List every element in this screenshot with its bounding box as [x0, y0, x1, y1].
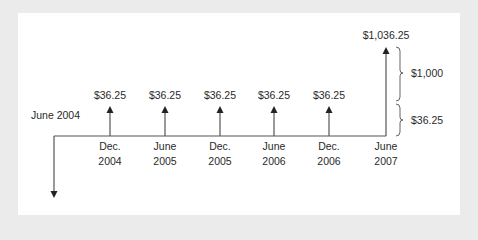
arrowhead-up: [383, 47, 390, 54]
date-line2: 2006: [262, 154, 285, 169]
arrowhead-down: [51, 191, 58, 198]
date-line2: 2007: [374, 154, 397, 169]
date-line2: 2004: [98, 154, 121, 169]
coupon-amount-1: $36.25: [94, 89, 126, 101]
brace-coupon: [396, 104, 403, 136]
brace-principal: [396, 47, 403, 101]
arrowhead-up: [271, 106, 278, 113]
arrowhead-up: [217, 106, 224, 113]
coupon-amount-4: $36.25: [258, 89, 290, 101]
date-label-2: June 2005: [153, 139, 176, 169]
date-label-1: Dec. 2004: [98, 139, 121, 169]
date-label-5: Dec. 2006: [317, 139, 340, 169]
date-line2: 2005: [153, 154, 176, 169]
arrowhead-up: [107, 106, 114, 113]
date-line1: Dec.: [98, 139, 121, 154]
coupon-component-label: $36.25: [411, 114, 443, 126]
final-payment-amount: $1,036.25: [363, 29, 410, 41]
date-line1: June: [262, 139, 285, 154]
coupon-amount-5: $36.25: [313, 89, 345, 101]
coupon-amount-3: $36.25: [204, 89, 236, 101]
date-line2: 2006: [317, 154, 340, 169]
principal-component-label: $1,000: [411, 67, 443, 79]
coupon-amount-2: $36.25: [149, 89, 181, 101]
date-line1: Dec.: [208, 139, 231, 154]
date-label-4: June 2006: [262, 139, 285, 169]
arrowhead-up: [326, 106, 333, 113]
arrowhead-up: [162, 106, 169, 113]
date-line1: June: [153, 139, 176, 154]
date-label-3: Dec. 2005: [208, 139, 231, 169]
date-line1: June: [374, 139, 397, 154]
date-line1: Dec.: [317, 139, 340, 154]
start-date-label: June 2004: [31, 109, 80, 121]
date-line2: 2005: [208, 154, 231, 169]
date-label-final: June 2007: [374, 139, 397, 169]
